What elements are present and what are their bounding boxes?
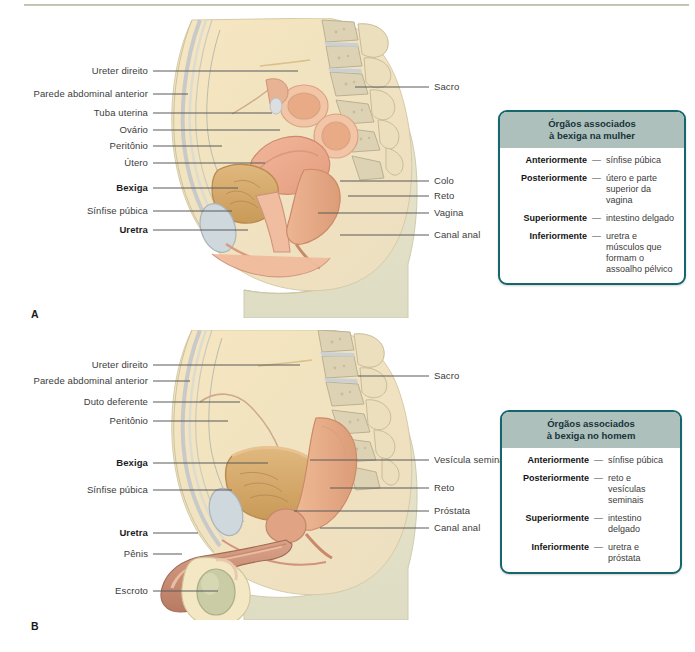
label-female-left-7: Sínfise púbica bbox=[87, 206, 148, 216]
infobox-male-def-0: sínfise púbica bbox=[608, 455, 671, 466]
label-female-right-1: Colo bbox=[434, 176, 454, 186]
leader-male-right-4 bbox=[320, 528, 429, 529]
infobox-female-term-2: Superiormente bbox=[509, 213, 587, 224]
infobox-female-term-0: Anteriormente bbox=[509, 155, 587, 166]
infobox-female-term-3: Inferiormente bbox=[509, 231, 587, 242]
label-male-left-2: Duto deferente bbox=[84, 397, 148, 407]
leader-male-right-2 bbox=[330, 488, 429, 489]
leader-male-left-5 bbox=[153, 490, 232, 491]
infobox-female-header: Órgãos associados à bexiga na mulher bbox=[500, 112, 684, 148]
infobox-female-dash-2: — bbox=[587, 213, 606, 224]
infobox-female-term-1: Posteriormente bbox=[509, 173, 587, 184]
infobox-female-dash-3: — bbox=[587, 231, 606, 242]
label-male-left-7: Pênis bbox=[124, 549, 148, 559]
leader-female-right-1 bbox=[340, 181, 429, 182]
label-male-left-8: Escroto bbox=[115, 586, 148, 596]
leader-female-right-4 bbox=[340, 235, 429, 236]
leader-female-left-6 bbox=[153, 188, 238, 189]
leader-female-left-1 bbox=[153, 94, 188, 95]
panel-letter-b: B bbox=[31, 620, 39, 632]
infobox-female-def-2: intestino delgado bbox=[606, 213, 675, 224]
infobox-male-row: Superiormente—intestino delgado bbox=[511, 513, 671, 535]
infobox-male-def-2: intestino delgado bbox=[608, 513, 671, 535]
label-male-left-6: Uretra bbox=[119, 528, 148, 538]
label-male-right-1: Vesícula seminal bbox=[434, 455, 507, 465]
infobox-male-def-1: reto e vesículas seminais bbox=[608, 473, 671, 506]
label-female-left-5: Útero bbox=[124, 158, 148, 168]
male-sagittal-illustration bbox=[140, 330, 450, 620]
infobox-female-body: Anteriormente—sínfise púbicaPosteriormen… bbox=[500, 148, 684, 283]
female-anatomy-svg bbox=[140, 18, 450, 318]
leader-female-left-3 bbox=[153, 130, 280, 131]
leader-female-right-3 bbox=[318, 213, 429, 214]
panel-letter-a: A bbox=[31, 308, 39, 320]
infobox-female-row: Anteriormente—sínfise púbica bbox=[509, 155, 675, 166]
infobox-female-row: Superiormente—intestino delgado bbox=[509, 213, 675, 224]
infobox-male-term-0: Anteriormente bbox=[511, 455, 589, 466]
label-female-left-4: Peritônio bbox=[110, 141, 148, 151]
leader-male-right-3 bbox=[294, 511, 429, 512]
infobox-male-term-2: Superiormente bbox=[511, 513, 589, 524]
leader-female-right-0 bbox=[355, 87, 429, 88]
leader-female-left-8 bbox=[153, 230, 248, 231]
infobox-male-dash-0: — bbox=[589, 455, 608, 466]
infobox-female-dash-1: — bbox=[587, 173, 606, 184]
infobox-male-def-3: uretra e próstata bbox=[608, 542, 671, 564]
leader-male-left-7 bbox=[153, 554, 182, 555]
label-female-left-3: Ovário bbox=[119, 125, 148, 135]
infobox-male-dash-1: — bbox=[589, 473, 608, 484]
leader-male-left-3 bbox=[153, 421, 228, 422]
infobox-male-title-line1: Órgãos associados bbox=[506, 418, 676, 430]
label-female-right-3: Vagina bbox=[434, 208, 463, 218]
infobox-male-row: Posteriormente—reto e vesículas seminais bbox=[511, 473, 671, 506]
label-female-left-6: Bexiga bbox=[116, 183, 148, 193]
infobox-male-body: Anteriormente—sínfise púbicaPosteriormen… bbox=[502, 448, 680, 572]
infobox-female-def-0: sínfise púbica bbox=[606, 155, 675, 166]
leader-female-left-4 bbox=[153, 146, 222, 147]
leader-female-right-2 bbox=[348, 196, 429, 197]
label-female-left-0: Ureter direito bbox=[92, 66, 148, 76]
label-female-left-1: Parede abdominal anterior bbox=[34, 89, 148, 99]
infobox-female-row: Posteriormente—útero e parte superior da… bbox=[509, 173, 675, 206]
label-male-left-4: Bexiga bbox=[116, 458, 148, 468]
label-male-right-3: Próstata bbox=[434, 506, 470, 516]
leader-male-left-8 bbox=[153, 591, 218, 592]
infobox-female-def-3: uretra e músculos que formam o assoalho … bbox=[606, 231, 675, 275]
leader-male-left-4 bbox=[153, 463, 268, 464]
label-male-right-4: Canal anal bbox=[434, 523, 480, 533]
leader-male-left-0 bbox=[153, 365, 300, 366]
infobox-female-title-line1: Órgãos associados bbox=[504, 118, 680, 130]
label-male-right-0: Sacro bbox=[434, 371, 459, 381]
leader-male-left-6 bbox=[153, 533, 198, 534]
leader-female-left-0 bbox=[153, 71, 298, 72]
label-male-left-1: Parede abdominal anterior bbox=[34, 376, 148, 386]
label-male-left-0: Ureter direito bbox=[92, 360, 148, 370]
infobox-female-title-line2: à bexiga na mulher bbox=[504, 130, 680, 142]
leader-male-right-0 bbox=[358, 376, 429, 377]
infobox-female-row: Inferiormente—uretra e músculos que form… bbox=[509, 231, 675, 275]
infobox-male-row: Inferiormente—uretra e próstata bbox=[511, 542, 671, 564]
infobox-male-term-1: Posteriormente bbox=[511, 473, 589, 484]
male-anatomy-svg bbox=[140, 330, 450, 620]
infobox-female: Órgãos associados à bexiga na mulher Ant… bbox=[498, 110, 686, 285]
label-female-left-2: Tuba uterina bbox=[94, 108, 148, 118]
label-male-right-2: Reto bbox=[434, 483, 454, 493]
infobox-male: Órgãos associados à bexiga no homem Ante… bbox=[500, 410, 682, 574]
infobox-female-def-1: útero e parte superior da vagina bbox=[606, 173, 675, 206]
label-female-right-2: Reto bbox=[434, 191, 454, 201]
label-female-right-4: Canal anal bbox=[434, 230, 480, 240]
figure-page: A bbox=[0, 0, 695, 652]
label-male-left-3: Peritônio bbox=[110, 416, 148, 426]
label-female-left-8: Uretra bbox=[119, 225, 148, 235]
infobox-male-dash-3: — bbox=[589, 542, 608, 553]
female-sagittal-illustration bbox=[140, 18, 450, 318]
leader-female-left-2 bbox=[153, 113, 272, 114]
top-rule-divider bbox=[24, 4, 689, 6]
infobox-male-row: Anteriormente—sínfise púbica bbox=[511, 455, 671, 466]
label-female-right-0: Sacro bbox=[434, 82, 459, 92]
infobox-female-dash-0: — bbox=[587, 155, 606, 166]
leader-male-left-1 bbox=[153, 381, 190, 382]
leader-female-left-7 bbox=[153, 211, 232, 212]
label-male-left-5: Sínfise púbica bbox=[87, 485, 148, 495]
infobox-male-title-line2: à bexiga no homem bbox=[506, 430, 676, 442]
